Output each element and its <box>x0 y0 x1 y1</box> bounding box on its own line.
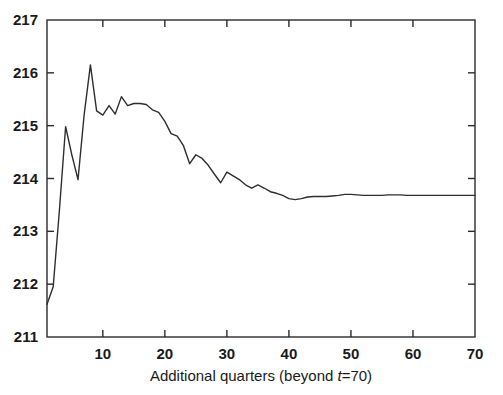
y-tick-label: 214 <box>13 170 39 187</box>
x-tick-label: 30 <box>219 345 236 362</box>
x-tick-label: 10 <box>94 345 111 362</box>
plot-frame <box>47 20 475 337</box>
x-axis-ticks <box>103 20 413 337</box>
x-tick-label: 70 <box>467 345 484 362</box>
figure-container: 211212213214215216217 10203040506070 Add… <box>0 0 503 395</box>
y-tick-label: 212 <box>13 275 38 292</box>
x-axis-title: Additional quarters (beyond t=70) <box>150 367 372 384</box>
y-axis-tick-labels: 211212213214215216217 <box>13 11 39 345</box>
x-tick-label: 60 <box>405 345 422 362</box>
x-tick-label: 40 <box>281 345 298 362</box>
y-tick-label: 213 <box>13 222 38 239</box>
x-tick-label: 20 <box>157 345 174 362</box>
y-axis-ticks <box>47 73 475 284</box>
y-tick-label: 217 <box>13 11 38 28</box>
data-series-line <box>47 65 475 304</box>
y-tick-label: 216 <box>13 64 38 81</box>
line-chart: 211212213214215216217 10203040506070 Add… <box>0 0 503 395</box>
y-tick-label: 211 <box>14 328 38 345</box>
y-tick-label: 215 <box>13 117 38 134</box>
x-tick-label: 50 <box>343 345 360 362</box>
x-axis-tick-labels: 10203040506070 <box>94 345 483 362</box>
